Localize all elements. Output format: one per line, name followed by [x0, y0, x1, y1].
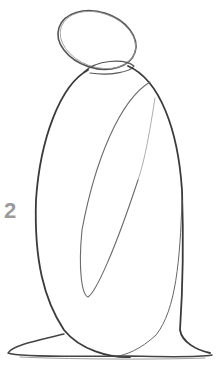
sketch-canvas: 2: [0, 0, 218, 377]
body-left-outline: [36, 70, 130, 357]
body-right-inner: [118, 200, 182, 356]
pencil-sketch: [0, 0, 218, 377]
robe-base: [8, 334, 212, 357]
step-number-label: 2: [4, 200, 16, 222]
drape-fold: [80, 82, 150, 297]
drape-fold-light: [138, 98, 155, 180]
